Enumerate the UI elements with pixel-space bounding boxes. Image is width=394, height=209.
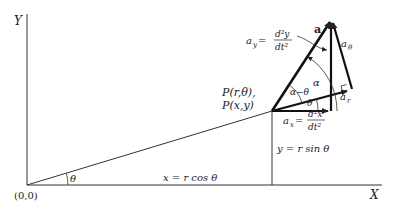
a-x-denominator: dt²: [308, 122, 321, 132]
a-y-numerator: d²y: [275, 29, 290, 39]
alpha-minus-theta-label: α−θ: [290, 87, 310, 97]
y-axis-label: Y: [14, 14, 23, 28]
origin-label: (0,0): [14, 190, 38, 201]
theta-arc-origin: [66, 173, 68, 185]
a-theta-sub: θ: [348, 44, 353, 52]
theta-p-label: θ: [307, 98, 313, 108]
polar-acceleration-diagram: Y X (0,0) θ x = r cos θ y = r sin θ P(r,…: [0, 0, 394, 209]
y-equation-label: y = r sin θ: [276, 143, 329, 154]
a-r-sub: r: [347, 97, 351, 105]
a-r-label: a: [340, 91, 346, 102]
a-theta-label: a: [341, 38, 347, 49]
a-x-sub: x: [290, 121, 294, 129]
theta-origin-label: θ: [70, 173, 76, 184]
alpha-label: α: [313, 77, 320, 88]
a-y-denominator: dt²: [275, 42, 288, 52]
x-axis-label: X: [369, 188, 379, 202]
vector-a-theta: [333, 23, 352, 89]
point-cartesian-label: P(x,y): [221, 99, 254, 112]
a-x-label: a: [283, 115, 289, 126]
vector-a-label: a: [314, 23, 321, 36]
point-polar-label: P(r,θ),: [221, 86, 256, 99]
a-x-equals: =: [295, 115, 303, 126]
a-x-numerator: d²x: [308, 109, 322, 119]
a-y-label: a: [246, 35, 252, 46]
radius-line: [27, 111, 272, 185]
x-equation-label: x = r cos θ: [163, 172, 217, 183]
a-y-equals: =: [258, 35, 266, 46]
